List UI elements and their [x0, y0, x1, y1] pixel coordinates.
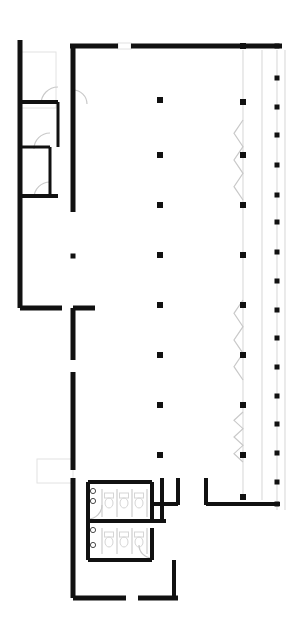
perimeter-column-line-outer	[275, 44, 280, 49]
perimeter-column-line-outer	[275, 279, 280, 284]
perimeter-column-line-outer	[275, 193, 280, 198]
perimeter-column-line-inner	[240, 352, 246, 358]
interior-column-line	[157, 302, 163, 308]
interior-column-line	[157, 252, 163, 258]
perimeter-column-line-outer	[275, 502, 280, 507]
interior-column-line	[157, 202, 163, 208]
perimeter-column-line-outer	[275, 365, 280, 370]
perimeter-column-line-outer	[275, 220, 280, 225]
floor-plan-drawing	[0, 0, 301, 635]
perimeter-column-line-outer	[275, 250, 280, 255]
perimeter-column-line-inner	[240, 99, 246, 105]
perimeter-column-line-outer	[275, 105, 280, 110]
perimeter-column-line-inner	[240, 402, 246, 408]
interior-column-line	[157, 97, 163, 103]
interior-column-line	[157, 452, 163, 458]
column-left-bay	[71, 254, 76, 259]
floor-plan-canvas	[0, 0, 301, 635]
perimeter-column-line-outer	[275, 163, 280, 168]
interior-column-line	[157, 152, 163, 158]
perimeter-column-line-inner	[240, 202, 246, 208]
perimeter-column-line-outer	[275, 394, 280, 399]
perimeter-column-line-outer	[275, 480, 280, 485]
perimeter-column-line-outer	[275, 336, 280, 341]
perimeter-column-line-outer	[275, 308, 280, 313]
perimeter-column-line-inner	[240, 494, 246, 500]
perimeter-column-line-inner	[240, 43, 246, 49]
interior-column-line	[157, 402, 163, 408]
interior-column-line	[157, 352, 163, 358]
perimeter-column-line-outer	[275, 451, 280, 456]
perimeter-column-line-outer	[275, 76, 280, 81]
perimeter-column-line-inner	[240, 152, 246, 158]
perimeter-column-line-outer	[275, 133, 280, 138]
perimeter-column-line-inner	[240, 452, 246, 458]
perimeter-column-line-inner	[240, 302, 246, 308]
perimeter-column-line-outer	[275, 422, 280, 427]
perimeter-column-line-inner	[240, 252, 246, 258]
